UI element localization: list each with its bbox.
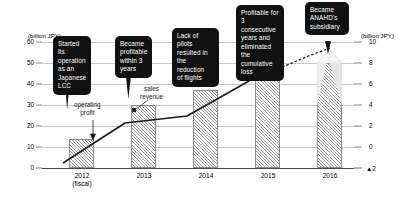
left-tick-30: 30 (18, 102, 34, 108)
callout-2016-line-2: ANAHD's (310, 14, 345, 22)
callout-2012-line-1: Started its (58, 40, 87, 57)
callout-2015: Profitable for 3 consecutive years and e… (236, 5, 284, 81)
sales-revenue-annotation-line2: revenue (140, 93, 163, 101)
callout-2013-line-1: Became (120, 40, 148, 48)
left-tick-10: 10 (18, 144, 34, 150)
sales-revenue-annotation: sales revenue (140, 85, 163, 101)
callout-2013: Became profitable within 3 years (115, 36, 152, 78)
bar-2013 (131, 105, 156, 168)
callout-2015-line-2: 3 consecutive (241, 17, 280, 34)
callout-2015-line-6: loss (241, 68, 280, 76)
callout-2012: Started its operation as an Japanese LCC (53, 36, 91, 95)
callout-2016-line-3: subsidiary (310, 23, 345, 31)
callout-2016: Became ANAHD's subsidiary (305, 2, 349, 35)
callout-2016-line-1: Became (310, 6, 345, 14)
revenue-operating-profit-chart: (billion JPY) (billion JPY) 60 50 40 30 … (0, 0, 405, 199)
callout-2012-line-5: LCC (58, 82, 87, 90)
right-tick-8: 8 (369, 60, 385, 66)
callout-2014-line-1: Lack of pilots (177, 32, 215, 49)
right-tick-6: 6 (369, 81, 385, 87)
xcat-2012: 2012 (fiscal) (59, 172, 105, 188)
operating-profit-annotation-line2: profit (74, 109, 101, 117)
bar-2012 (69, 139, 94, 168)
callout-2012-line-4: Japanese (58, 74, 87, 82)
sales-revenue-annotation-line1: sales (140, 85, 163, 93)
xcat-fiscal-note: (fiscal) (59, 180, 105, 188)
xcat-2012-year: 2012 (59, 172, 105, 180)
callout-2015-line-1: Profitable for (241, 9, 280, 17)
bar-2015 (255, 67, 280, 168)
xcat-2014: 2014 (183, 172, 229, 180)
operating-profit-annotation: operating profit (74, 101, 101, 117)
xcat-2016: 2016 (307, 172, 353, 180)
callout-2015-line-3: years and (241, 34, 280, 42)
callout-2013-line-4: years (120, 65, 148, 73)
left-tick-20: 20 (18, 123, 34, 129)
callout-2012-line-3: as an (58, 65, 87, 73)
xcat-2013: 2013 (121, 172, 167, 180)
callout-2013-line-3: within 3 (120, 57, 148, 65)
callout-2015-line-5: the cumulative (241, 51, 280, 68)
right-tick-4: 4 (369, 102, 385, 108)
right-tick-10: 10 (369, 39, 385, 45)
right-tick-0: 0 (369, 144, 385, 150)
callout-2015-line-4: eliminated (241, 43, 280, 51)
operating-profit-annotation-line1: operating (74, 101, 101, 109)
callout-2014-line-4: of flights (177, 74, 215, 82)
right-tick-negative-2: ▲2 (366, 165, 376, 172)
left-tick-40: 40 (18, 81, 34, 87)
left-tick-0: 0 (18, 165, 34, 171)
callout-2012-line-2: operation (58, 57, 87, 65)
right-axis-unit-label: (billion JPY) (361, 32, 394, 39)
right-tick-2: 2 (369, 123, 385, 129)
callout-2014-line-2: resulted in (177, 49, 215, 57)
callout-2014-line-3: the reduction (177, 57, 215, 74)
left-tick-60: 60 (18, 39, 34, 45)
bar-2016 (317, 63, 342, 168)
gridline-baseline (42, 168, 354, 169)
left-tick-50: 50 (18, 60, 34, 66)
callout-2014: Lack of pilots resulted in the reduction… (172, 28, 219, 87)
callout-2013-line-2: profitable (120, 48, 148, 56)
right-axis-ticks (354, 42, 362, 147)
xcat-2015: 2015 (245, 172, 291, 180)
bar-2014 (193, 90, 218, 168)
